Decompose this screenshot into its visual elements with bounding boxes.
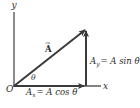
vector-component-diagram: y x O A → θ Ax= A cos θ Ay= A sin θ: [0, 0, 140, 108]
x-axis-label: x: [103, 81, 108, 91]
vector-a-accent-arrow: →: [45, 39, 50, 46]
y-component-label: Ay= A sin θ: [89, 56, 140, 68]
origin-label: O: [6, 84, 14, 94]
x-component-subscript: x: [32, 91, 36, 98]
y-component-equation: = A sin θ: [101, 56, 140, 66]
x-component-label: Ax= A cos θ: [25, 87, 77, 98]
angle-theta-label: θ: [31, 73, 36, 82]
x-component-symbol: A: [25, 87, 32, 97]
y-component-symbol: A: [89, 56, 96, 66]
x-component-equation: = A cos θ: [37, 87, 78, 97]
y-axis-label: y: [11, 0, 18, 10]
y-component-subscript: y: [95, 60, 100, 68]
